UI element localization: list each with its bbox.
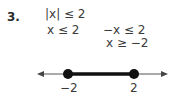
left-endpoint-label: −2 bbox=[60, 82, 78, 94]
left-arrow-icon bbox=[37, 71, 44, 77]
right-arrow-icon bbox=[161, 71, 168, 77]
right-closed-dot bbox=[129, 69, 139, 79]
right-endpoint-label: 2 bbox=[130, 82, 138, 94]
left-closed-dot bbox=[63, 69, 73, 79]
number-line bbox=[0, 0, 180, 101]
